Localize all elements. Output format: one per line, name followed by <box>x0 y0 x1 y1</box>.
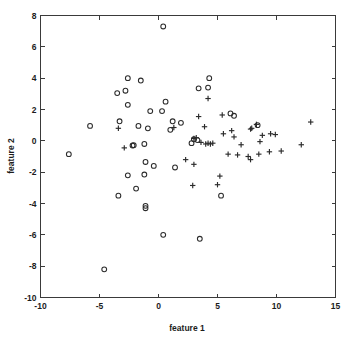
y-tick-label: 8 <box>32 11 37 21</box>
y-axis-title: feature 2 <box>6 138 16 174</box>
data-point-circle <box>219 193 224 198</box>
data-point-plus <box>205 96 210 101</box>
data-point-plus <box>268 131 273 136</box>
axes-frame <box>41 16 336 298</box>
data-point-circle <box>207 76 212 81</box>
data-point-plus <box>248 126 253 131</box>
x-tick-label: -5 <box>96 301 104 311</box>
plot-canvas: -10-5051015-10-8-6-4-202468 feature 1 fe… <box>0 0 352 341</box>
data-point-circle <box>179 120 184 125</box>
data-point-plus <box>308 119 313 124</box>
x-tick-label: 0 <box>156 301 161 311</box>
data-point-circle <box>125 76 130 81</box>
data-point-circle <box>143 160 148 165</box>
data-point-plus <box>183 157 188 162</box>
data-point-plus <box>191 162 196 167</box>
data-point-plus <box>267 149 272 154</box>
data-point-plus <box>196 114 201 119</box>
data-point-plus <box>249 126 254 131</box>
data-point-plus <box>299 142 304 147</box>
data-point-plus <box>221 131 226 136</box>
y-tick-label: -2 <box>29 167 37 177</box>
data-point-circle <box>142 142 147 147</box>
y-tick-label: -8 <box>29 261 37 271</box>
y-tick-label: 6 <box>32 42 37 52</box>
data-point-circle <box>206 85 211 90</box>
data-point-plus <box>198 140 203 145</box>
data-point-circle <box>148 109 153 114</box>
data-point-plus <box>116 126 121 131</box>
y-tick-label: 4 <box>32 73 37 83</box>
data-point-circle <box>145 126 150 131</box>
data-point-plus <box>235 152 240 157</box>
axis-ticks <box>41 16 336 298</box>
data-point-plus <box>279 148 284 153</box>
x-axis-title: feature 1 <box>169 323 205 333</box>
data-point-plus <box>220 112 225 117</box>
data-point-circle <box>125 173 130 178</box>
data-point-plus <box>229 128 234 133</box>
y-tick-label: 2 <box>32 105 37 115</box>
data-point-circle <box>151 164 156 169</box>
x-tick-label: 5 <box>215 301 220 311</box>
x-tick-label: 10 <box>272 301 282 311</box>
data-point-circle <box>142 172 147 177</box>
data-point-plus <box>273 132 278 137</box>
y-tick-label: -6 <box>29 230 37 240</box>
data-point-plus <box>231 134 236 139</box>
data-point-plus <box>238 142 243 147</box>
data-point-plus <box>257 139 262 144</box>
axis-tick-labels: -10-5051015-10-8-6-4-202468 <box>24 11 340 311</box>
data-point-circle <box>232 113 237 118</box>
scatter-plot-figure: -10-5051015-10-8-6-4-202468 feature 1 fe… <box>0 0 352 341</box>
data-point-circle <box>161 24 166 29</box>
data-point-circle <box>66 152 71 157</box>
data-point-plus <box>260 133 265 138</box>
data-point-circle <box>136 124 141 129</box>
data-point-circle <box>138 78 143 83</box>
data-point-plus <box>202 124 207 129</box>
data-point-circle <box>88 124 93 129</box>
data-point-circle <box>134 186 139 191</box>
data-markers <box>66 24 313 272</box>
data-point-circle <box>163 99 168 104</box>
data-point-circle <box>117 119 122 124</box>
data-point-plus <box>225 151 230 156</box>
data-point-circle <box>197 236 202 241</box>
data-point-circle <box>102 267 107 272</box>
data-point-circle <box>168 127 173 132</box>
data-point-circle <box>173 165 178 170</box>
data-point-plus <box>190 183 195 188</box>
data-point-circle <box>116 193 121 198</box>
data-point-circle <box>123 88 128 93</box>
y-tick-label: -4 <box>29 199 37 209</box>
data-point-circle <box>161 232 166 237</box>
data-point-circle <box>196 86 201 91</box>
y-tick-label: -10 <box>24 293 37 303</box>
data-point-plus <box>171 125 176 130</box>
data-point-circle <box>170 119 175 124</box>
data-point-circle <box>125 102 130 107</box>
data-point-plus <box>256 151 261 156</box>
data-point-plus <box>217 173 222 178</box>
data-point-plus <box>215 182 220 187</box>
y-tick-label: 0 <box>32 136 37 146</box>
data-point-plus <box>122 145 127 150</box>
data-point-circle <box>160 109 165 114</box>
data-point-circle <box>115 91 120 96</box>
x-tick-label: 15 <box>331 301 341 311</box>
